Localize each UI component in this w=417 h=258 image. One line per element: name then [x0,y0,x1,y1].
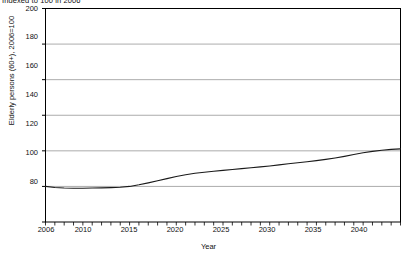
data-line-series-0 [46,149,401,188]
chart-figure: Indexed to 100 in 2006 Elderly persons (… [0,0,417,258]
x-tick-marks [46,222,401,226]
y-tick-marks [42,9,46,223]
plot-area [0,0,417,258]
gridlines [46,9,401,187]
